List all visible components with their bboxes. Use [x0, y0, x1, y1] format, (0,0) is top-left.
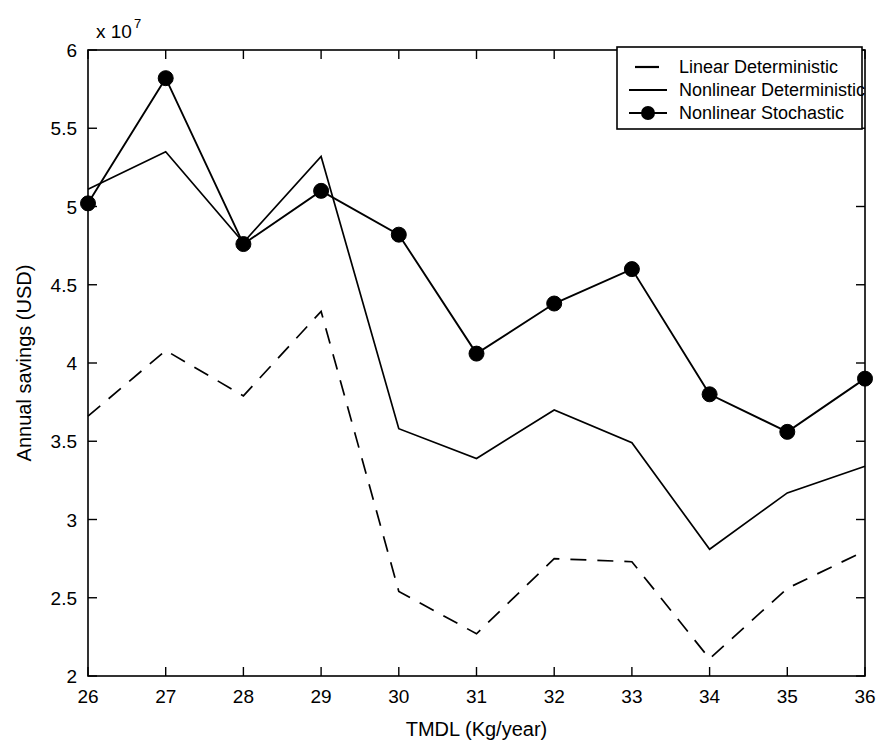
y-tick-label: 2	[66, 666, 77, 687]
x-tick-label: 36	[854, 686, 875, 707]
y-tick-label: 4.5	[51, 275, 77, 296]
data-point-marker	[81, 196, 96, 211]
chart-figure: 262728293031323334353622.533.544.555.56T…	[0, 0, 892, 751]
y-axis-exponent: 7	[134, 16, 141, 31]
data-point-marker	[780, 424, 795, 439]
data-point-marker	[469, 346, 484, 361]
x-tick-label: 35	[777, 686, 798, 707]
series-line	[88, 311, 865, 658]
x-tick-label: 34	[699, 686, 721, 707]
x-tick-label: 32	[544, 686, 565, 707]
axes	[88, 50, 865, 676]
legend-marker-icon	[641, 106, 655, 120]
data-point-marker	[314, 183, 329, 198]
data-point-marker	[236, 237, 251, 252]
data-point-marker	[158, 71, 173, 86]
x-tick-label: 31	[466, 686, 487, 707]
data-point-marker	[858, 371, 873, 386]
line-chart: 262728293031323334353622.533.544.555.56T…	[0, 0, 892, 751]
x-tick-label: 26	[77, 686, 98, 707]
legend-label: Nonlinear Deterministic	[679, 80, 865, 100]
y-tick-label: 3	[66, 510, 77, 531]
x-tick-label: 29	[311, 686, 332, 707]
y-tick-label: 4	[66, 353, 77, 374]
y-axis-title: Annual savings (USD)	[13, 265, 35, 462]
y-tick-label: 5	[66, 197, 77, 218]
x-axis-title: TMDL (Kg/year)	[406, 718, 548, 740]
data-series	[81, 71, 873, 659]
x-tick-label: 27	[155, 686, 176, 707]
y-axis-multiplier: x 10	[96, 21, 132, 42]
series-linear-deterministic	[88, 311, 865, 658]
y-tick-label: 2.5	[51, 588, 77, 609]
data-point-marker	[391, 227, 406, 242]
y-tick-label: 5.5	[51, 118, 77, 139]
x-tick-label: 33	[621, 686, 642, 707]
legend-label: Nonlinear Stochastic	[679, 103, 844, 123]
data-point-marker	[702, 387, 717, 402]
chart-legend[interactable]: Linear DeterministicNonlinear Determinis…	[617, 47, 865, 129]
plot-frame	[88, 50, 865, 676]
y-tick-label: 6	[66, 40, 77, 61]
data-point-marker	[547, 296, 562, 311]
y-tick-label: 3.5	[51, 431, 77, 452]
legend-label: Linear Deterministic	[679, 57, 838, 77]
x-tick-label: 28	[233, 686, 254, 707]
series-line	[88, 78, 865, 432]
x-tick-label: 30	[388, 686, 409, 707]
data-point-marker	[624, 262, 639, 277]
